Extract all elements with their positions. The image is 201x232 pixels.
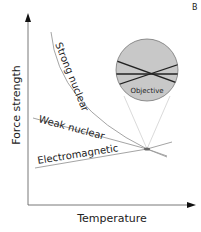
electromagnetic-label: Electromagnetic xyxy=(37,142,119,166)
zoom-line-right xyxy=(147,96,170,149)
y-axis-label: Force strength xyxy=(10,65,23,145)
zoom-line-left xyxy=(124,96,147,149)
y-axis-arrow-icon xyxy=(25,13,31,22)
convergence-point xyxy=(144,148,150,151)
x-axis-arrow-icon xyxy=(187,202,196,208)
weak-nuclear-label: Weak nuclear xyxy=(37,113,106,141)
panel-label: B xyxy=(192,3,198,12)
unification-diagram: B Temperature Force strength Strong nucl… xyxy=(0,0,201,232)
objective-inset: Objective xyxy=(114,39,180,101)
x-axis-label: Temperature xyxy=(76,212,147,225)
inset-label: Objective xyxy=(130,87,163,95)
strong-nuclear-label: Strong nuclear xyxy=(53,41,91,114)
